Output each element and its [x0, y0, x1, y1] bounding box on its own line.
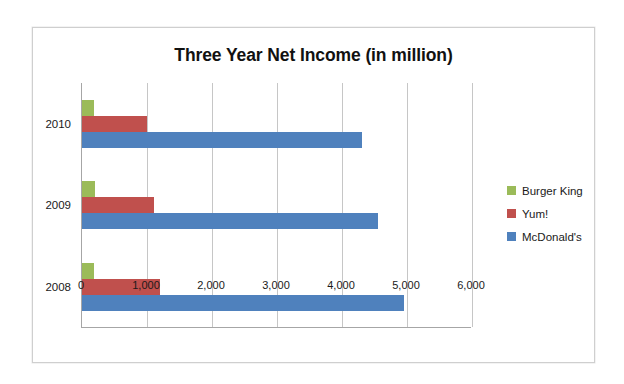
- bar: [82, 263, 94, 279]
- category-label: 2009: [45, 199, 71, 211]
- legend-label: Yum!: [522, 208, 548, 220]
- bar-group: 2009: [82, 165, 471, 247]
- bar: [82, 213, 378, 229]
- chart-legend: Burger KingYum!McDonald's: [507, 179, 583, 248]
- legend-item[interactable]: Burger King: [507, 179, 583, 202]
- legend-label: Burger King: [522, 185, 583, 197]
- legend-swatch-icon: [507, 209, 516, 218]
- x-tick-label: 0: [78, 279, 84, 291]
- category-label: 2008: [45, 281, 71, 293]
- bar: [82, 116, 147, 132]
- chart-frame: Three Year Net Income (in million) 20102…: [32, 27, 595, 363]
- bar: [82, 181, 95, 197]
- plot-area: 201020092008: [81, 83, 471, 328]
- x-tick-label: 1,000: [132, 279, 160, 291]
- x-tick-label: 4,000: [327, 279, 355, 291]
- bar: [82, 100, 94, 116]
- x-tick-label: 2,000: [197, 279, 225, 291]
- bar: [82, 132, 362, 148]
- bar: [82, 197, 154, 213]
- x-tick-label: 6,000: [457, 279, 485, 291]
- legend-swatch-icon: [507, 186, 516, 195]
- legend-item[interactable]: McDonald's: [507, 225, 583, 248]
- legend-label: McDonald's: [522, 231, 582, 243]
- legend-item[interactable]: Yum!: [507, 202, 583, 225]
- bar: [82, 295, 404, 311]
- x-tick-label: 3,000: [262, 279, 290, 291]
- x-tick-label: 5,000: [392, 279, 420, 291]
- chart-title: Three Year Net Income (in million): [33, 45, 594, 66]
- bar-group: 2010: [82, 83, 471, 165]
- category-label: 2010: [45, 118, 71, 130]
- legend-swatch-icon: [507, 232, 516, 241]
